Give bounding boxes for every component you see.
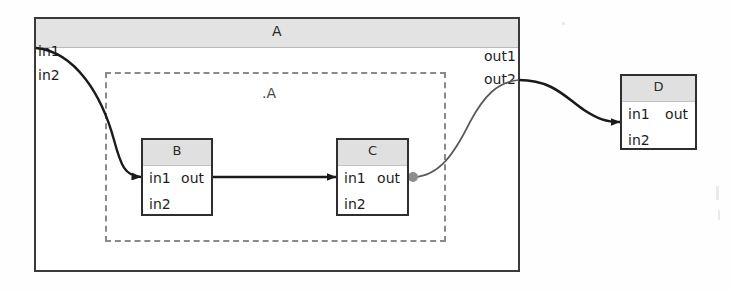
block-diagram-canvas: A .A in1 in2 out1 out2 B in1 xyxy=(0,0,732,291)
block-d[interactable]: D in1 in2 out xyxy=(620,74,697,150)
block-c-port-in1[interactable]: in1 xyxy=(344,170,366,186)
block-b-port-in1[interactable]: in1 xyxy=(149,170,171,186)
block-c-title: C xyxy=(338,143,407,158)
block-b-port-out[interactable]: out xyxy=(181,170,204,186)
outer-port-out2-label: out2 xyxy=(484,71,516,87)
junction-dot-c-out xyxy=(408,172,418,182)
outer-port-in2-label: in2 xyxy=(38,67,60,83)
composite-block-a-header: A xyxy=(36,19,518,48)
block-d-body: in1 in2 out xyxy=(622,102,695,148)
block-d-port-out[interactable]: out xyxy=(665,106,688,122)
block-d-port-in2[interactable]: in2 xyxy=(628,132,650,148)
block-c-port-out[interactable]: out xyxy=(377,170,400,186)
scan-speckle xyxy=(716,186,719,200)
outer-port-out1-label: out1 xyxy=(484,48,516,64)
block-d-port-in1[interactable]: in1 xyxy=(628,106,650,122)
block-b-header: B xyxy=(143,140,211,166)
block-b[interactable]: B in1 in2 out xyxy=(141,138,213,216)
block-d-title: D xyxy=(622,79,695,94)
block-c[interactable]: C in1 in2 out xyxy=(336,138,409,216)
block-d-header: D xyxy=(622,76,695,102)
block-c-body: in1 in2 out xyxy=(338,166,407,214)
outer-port-in1-label: in1 xyxy=(38,43,60,59)
composite-block-a-title: A xyxy=(36,23,518,39)
block-c-port-in2[interactable]: in2 xyxy=(344,196,366,212)
block-b-title: B xyxy=(143,143,211,158)
wire-a-out2-to-d-in1 xyxy=(519,80,620,122)
block-b-port-in2[interactable]: in2 xyxy=(149,196,171,212)
scan-speckle xyxy=(562,22,565,25)
block-c-header: C xyxy=(338,140,407,166)
subsystem-region-label: .A xyxy=(262,85,276,101)
scan-speckle xyxy=(718,210,720,220)
block-b-body: in1 in2 out xyxy=(143,166,211,214)
composite-block-a[interactable]: A xyxy=(34,17,520,272)
